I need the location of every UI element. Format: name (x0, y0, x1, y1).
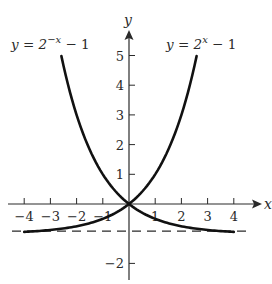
y-tick-label: 4 (116, 78, 124, 93)
eq-right-tail: − 1 (208, 36, 236, 52)
x-tick-labels: −4−3−2−11234 (15, 209, 238, 224)
x-tick-label: −4 (15, 209, 34, 224)
eq-left-tail: − 1 (61, 36, 89, 52)
x-tick-label: 3 (203, 209, 211, 224)
x-axis-label: x (264, 196, 272, 212)
x-tick-label: 4 (230, 209, 238, 224)
y-tick-label: 1 (116, 167, 124, 182)
curve-2-neg-x-minus-1 (61, 56, 233, 232)
y-ticks (129, 56, 135, 264)
y-tick-label: 5 (116, 49, 124, 64)
x-tick-label: −3 (41, 209, 60, 224)
graph: −4−3−2−11234 54321−2 y x y = 2−x − 1 y =… (0, 0, 272, 284)
eq-left-exp: −x (47, 34, 61, 45)
eq-right-base: y = 2 (165, 36, 202, 52)
y-tick-labels: 54321−2 (105, 49, 124, 272)
y-tick-label: 3 (116, 108, 124, 123)
y-axis-label: y (123, 12, 133, 28)
y-tick-label: −2 (105, 256, 124, 271)
equation-label-right: y = 2x − 1 (165, 34, 236, 52)
y-tick-label: 2 (116, 138, 124, 153)
x-tick-label: −2 (67, 209, 86, 224)
eq-left-base: y = 2 (10, 36, 47, 52)
x-tick-label: 2 (177, 209, 185, 224)
axes (8, 34, 258, 280)
curve-2-x-minus-1 (24, 56, 196, 232)
equation-label-left: y = 2−x − 1 (10, 34, 90, 52)
